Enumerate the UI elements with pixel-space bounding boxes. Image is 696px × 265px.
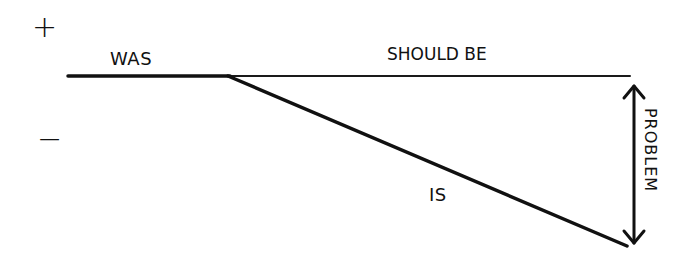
is-decline-line [228,76,627,246]
positive-marker: + [32,12,58,42]
is-label: IS [429,186,447,204]
negative-marker: − [37,124,63,154]
problem-label: PROBLEM [642,100,658,200]
problem-gap-diagram: + − WAS SHOULD BE IS PROBLEM [0,0,696,265]
should-be-label: SHOULD BE [387,46,487,63]
diagram-canvas [0,0,696,265]
was-label: WAS [110,50,152,68]
